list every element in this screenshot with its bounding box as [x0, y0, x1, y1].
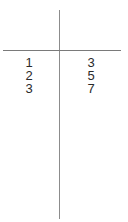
right-cell: 7 [81, 82, 101, 95]
right-column: 3 5 7 [81, 56, 101, 95]
vertical-divider [59, 10, 60, 219]
horizontal-divider [3, 50, 121, 51]
left-cell: 3 [19, 82, 39, 95]
t-table: 1 2 3 3 5 7 [0, 0, 128, 222]
left-column: 1 2 3 [19, 56, 39, 95]
